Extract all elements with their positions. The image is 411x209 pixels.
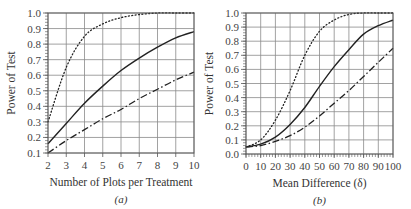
y-tick-label: 1.0 [27,7,41,19]
x-tick-label: 10 [255,160,267,172]
y-tick-label: 0.1 [225,134,239,146]
x-tick-labels-a: 2345678910 [45,159,200,171]
grid-a [48,13,194,153]
y-tick-label: 0.6 [27,69,41,81]
y-tick-label: 0.4 [225,92,239,104]
y-tick-label: 0.9 [225,21,239,33]
x-tick-label: 100 [385,160,402,172]
y-tick-labels-b: 0.00.10.20.30.40.50.60.70.80.91.0 [225,7,239,160]
x-tick-label: 4 [82,159,88,171]
x-tick-label: 70 [343,160,355,172]
x-tick-label: 2 [45,159,51,171]
x-axis-title-b: Mean Difference (δ) [273,177,367,190]
x-tick-labels-b: 0102030405060708090100 [243,160,402,172]
y-tick-label: 0.3 [27,116,41,128]
y-tick-label: 0.3 [225,106,239,118]
y-axis-title-b: Power of Test [203,51,215,115]
y-tick-labels-a: 0.10.20.30.40.50.60.70.80.91.0 [27,7,41,159]
chart-panel-a: 0.10.20.30.40.50.60.70.80.91.0 234567891… [5,7,200,206]
x-tick-label: 9 [173,159,179,171]
x-axis-title-a: Number of Plots per Treatment [49,176,193,189]
y-tick-label: 0.8 [225,35,239,47]
x-tick-label: 5 [100,159,106,171]
grid-b [246,13,393,154]
figure: 0.10.20.30.40.50.60.70.80.91.0 234567891… [0,0,411,209]
y-tick-label: 0.8 [27,38,41,50]
x-tick-label: 20 [270,160,282,172]
x-tick-label: 90 [373,160,385,172]
y-tick-label: 0.6 [225,63,239,75]
y-tick-label: 0.2 [225,120,239,132]
x-tick-label: 10 [189,159,201,171]
x-tick-label: 0 [243,160,249,172]
y-tick-label: 0.9 [27,23,41,35]
y-tick-label: 0.7 [27,54,41,66]
y-tick-label: 0.1 [27,147,41,159]
x-tick-label: 80 [358,160,370,172]
x-tick-label: 7 [137,159,143,171]
y-tick-label: 0.4 [27,100,41,112]
y-tick-label: 0.7 [225,49,239,61]
x-tick-label: 50 [314,160,326,172]
y-axis-title-a: Power of Test [5,50,17,114]
panel-label-a: (a) [115,193,128,206]
panel-label-b: (b) [313,194,326,207]
x-tick-label: 6 [118,159,124,171]
chart-panel-b: 0.00.10.20.30.40.50.60.70.80.91.0 010203… [203,7,402,207]
y-tick-label: 0.0 [225,148,239,160]
x-tick-label: 3 [64,159,70,171]
x-tick-label: 30 [285,160,297,172]
y-tick-label: 0.5 [225,78,239,90]
y-tick-label: 1.0 [225,7,239,19]
x-tick-label: 40 [299,160,311,172]
x-tick-label: 8 [155,159,161,171]
x-tick-label: 60 [329,160,341,172]
y-tick-label: 0.2 [27,131,41,143]
y-tick-label: 0.5 [27,85,41,97]
ticks-a [43,13,194,157]
